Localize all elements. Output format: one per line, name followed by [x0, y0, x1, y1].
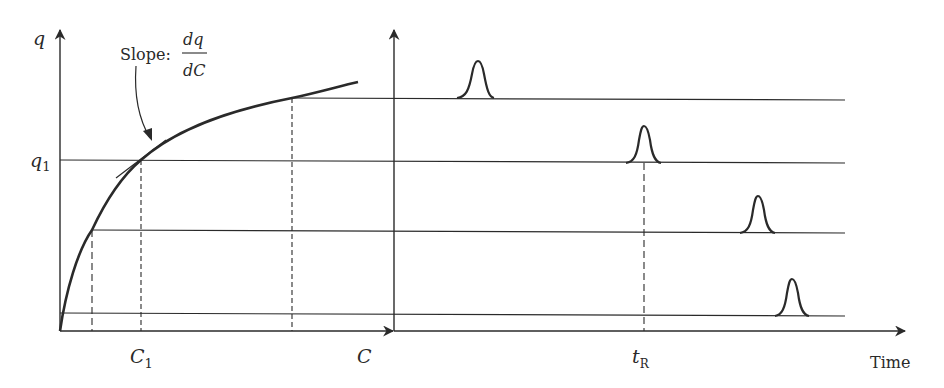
- slope-arrowhead: [143, 128, 152, 141]
- baseline-4: [60, 313, 845, 316]
- slope-denominator: dC: [183, 61, 205, 80]
- slope-arrow: [136, 66, 150, 138]
- peak-3: [740, 196, 775, 233]
- tr-label: tR: [632, 345, 650, 371]
- baseline-1: [292, 98, 845, 100]
- c1-label: C1: [130, 345, 153, 371]
- q1-label: q1: [30, 149, 50, 174]
- peak-1: [457, 61, 494, 98]
- isotherm-diagram: q q1 C1 C Slope: dq dC tR Time: [0, 0, 944, 388]
- isotherm-curve: [60, 82, 358, 331]
- slope-numerator: dq: [183, 30, 203, 49]
- peak-4: [775, 279, 809, 316]
- time-axis-label: Time: [870, 353, 910, 372]
- slope-label: Slope:: [120, 45, 171, 64]
- baseline-2: [60, 160, 845, 163]
- peak-2: [626, 126, 661, 163]
- c-axis-label: C: [357, 345, 372, 367]
- q-axis-label: q: [33, 27, 45, 49]
- baseline-3: [92, 230, 845, 233]
